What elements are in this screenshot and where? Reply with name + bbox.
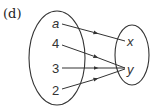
arrow-2-to-y: [62, 69, 125, 89]
codomain-element-y: y: [126, 62, 135, 77]
arrow-a-to-x: [62, 24, 125, 41]
part-label: (d): [3, 6, 21, 21]
domain-element-a: a: [52, 16, 59, 31]
mapping-diagram: (d) a 4 3 2 x y: [0, 0, 162, 110]
codomain-element-x: x: [126, 34, 134, 49]
domain-element-3: 3: [52, 61, 59, 76]
mapping-svg: a 4 3 2 x y: [0, 0, 162, 110]
domain-element-4: 4: [52, 36, 59, 51]
domain-element-2: 2: [52, 83, 59, 98]
